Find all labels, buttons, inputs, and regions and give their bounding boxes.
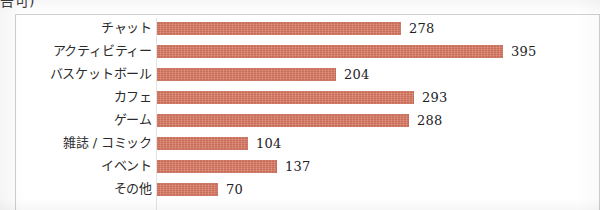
bar xyxy=(157,183,218,196)
bar xyxy=(157,91,414,104)
bar-category-label: ゲーム xyxy=(0,111,152,129)
bar-row: バスケットボール204 xyxy=(0,64,600,87)
bar-value-label: 70 xyxy=(226,181,243,198)
bar-category-label: チャット xyxy=(0,19,152,37)
bar-track xyxy=(157,45,503,58)
bar-row: その他70 xyxy=(0,179,600,202)
bar-track xyxy=(157,114,409,127)
scanned-chart-page: 告可) チャット278アクティビティー395バスケットボール204カフェ293ゲ… xyxy=(0,0,600,210)
bar xyxy=(157,160,277,173)
bar-category-label: カフェ xyxy=(0,88,152,106)
bar-track xyxy=(157,91,414,104)
bar-rows: チャット278アクティビティー395バスケットボール204カフェ293ゲーム28… xyxy=(0,18,600,202)
bar-value-label: 288 xyxy=(417,112,442,129)
bar-row: 雑誌 / コミック104 xyxy=(0,133,600,156)
bar-category-label: アクティビティー xyxy=(0,42,152,60)
bar-row: アクティビティー395 xyxy=(0,41,600,64)
bar-category-label: バスケットボール xyxy=(0,65,152,83)
bar-track xyxy=(157,137,248,150)
bar xyxy=(157,22,401,35)
bar-row: カフェ293 xyxy=(0,87,600,110)
bar-category-label: その他 xyxy=(0,180,152,198)
bar-value-label: 137 xyxy=(285,158,310,175)
bar xyxy=(157,68,336,81)
bar-track xyxy=(157,183,218,196)
bar-track xyxy=(157,160,277,173)
bar-row: チャット278 xyxy=(0,18,600,41)
bar xyxy=(157,137,248,150)
bar-value-label: 204 xyxy=(344,66,369,83)
clipped-header-text: 告可) xyxy=(0,0,35,9)
bar-chart: チャット278アクティビティー395バスケットボール204カフェ293ゲーム28… xyxy=(0,14,600,210)
bar-value-label: 278 xyxy=(409,20,434,37)
bar-value-label: 104 xyxy=(256,135,281,152)
bar-row: イベント137 xyxy=(0,156,600,179)
bar-value-label: 395 xyxy=(511,43,536,60)
bar-value-label: 293 xyxy=(422,89,447,106)
bar-track xyxy=(157,22,401,35)
bar-row: ゲーム288 xyxy=(0,110,600,133)
bar-category-label: イベント xyxy=(0,157,152,175)
bar-track xyxy=(157,68,336,81)
bar-category-label: 雑誌 / コミック xyxy=(0,134,152,152)
bar xyxy=(157,45,503,58)
bar xyxy=(157,114,409,127)
